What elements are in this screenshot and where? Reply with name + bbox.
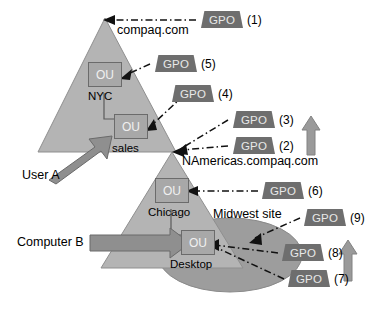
gpo-label-1[interactable]: GPO (1) [201,11,262,28]
gpo-number-3: (3) [279,113,294,127]
gpo-text-1: GPO [209,14,235,26]
ou-name-sales: sales [112,143,139,155]
ou-box-desktop[interactable]: OU [181,230,215,255]
gpo-shape-8: GPO [282,244,324,261]
gpo-shape-1: GPO [201,11,243,28]
gpo-label-9[interactable]: GPO (9) [304,209,365,226]
gpo-inheritance-diagram: compaq.com NAmericas.compaq.com Midwest … [0,0,370,311]
gpo-number-5: (5) [201,57,216,71]
ou-box-desktop-text: OU [189,236,207,250]
gpo-number-9: (9) [350,211,365,225]
gpo-label-3[interactable]: GPO (3) [233,111,294,128]
connector-gpo2 [182,146,228,150]
gpo-label-2[interactable]: GPO (2) [233,137,294,154]
gpo-number-8: (8) [328,246,343,260]
actor-label-computer-b: Computer B [17,236,84,249]
gpo-shape-3: GPO [233,111,275,128]
gpo-number-4: (4) [218,87,233,101]
gpo-label-7[interactable]: GPO (7) [288,270,349,287]
gpo-number-2: (2) [279,139,294,153]
gpo-shape-4: GPO [172,85,214,102]
gpo-label-4[interactable]: GPO (4) [172,85,233,102]
ou-box-sales[interactable]: OU [114,114,148,139]
gpo-text-5: GPO [163,58,189,70]
ou-name-chicago: Chicago [148,207,190,219]
domain-label-compaq: compaq.com [117,24,189,37]
connector-gpo3 [182,120,228,148]
ou-name-nyc: NYC [88,91,112,103]
domain-label-namericas: NAmericas.compaq.com [182,155,318,168]
gpo-text-6: GPO [270,185,296,197]
gpo-label-6[interactable]: GPO (6) [262,182,323,199]
actor-label-user-a: User A [22,169,60,182]
gpo-label-8[interactable]: GPO (8) [282,244,343,261]
ou-box-chicago[interactable]: OU [155,178,189,203]
ou-box-chicago-text: OU [163,184,181,198]
gpo-shape-6: GPO [262,182,304,199]
gpo-text-7: GPO [296,273,322,285]
gpo-shape-5: GPO [155,55,197,72]
site-label-midwest: Midwest site [213,208,282,221]
ou-name-desktop: Desktop [170,259,212,271]
gpo-label-5[interactable]: GPO (5) [155,55,216,72]
gpo-text-8: GPO [290,247,316,259]
gpo-number-7: (7) [334,272,349,286]
application-order-arrow-upper [302,116,320,155]
gpo-number-1: (1) [247,13,262,27]
gpo-number-6: (6) [308,184,323,198]
gpo-text-4: GPO [180,88,206,100]
gpo-text-2: GPO [241,140,267,152]
ou-box-nyc[interactable]: OU [88,62,122,87]
gpo-shape-2: GPO [233,137,275,154]
ou-box-sales-text: OU [122,120,140,134]
gpo-text-3: GPO [241,114,267,126]
gpo-shape-9: GPO [304,209,346,226]
ou-box-nyc-text: OU [96,68,114,82]
gpo-text-9: GPO [312,212,338,224]
gpo-shape-7: GPO [288,270,330,287]
